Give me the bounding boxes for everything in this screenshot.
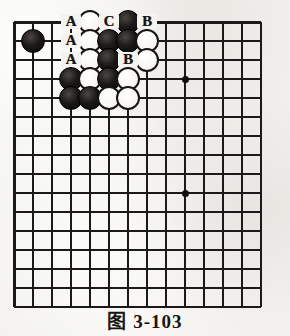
point-label-b[interactable]: B [118, 52, 138, 67]
grid-line-vertical [203, 22, 205, 307]
white-stone[interactable] [116, 86, 140, 110]
star-point [182, 190, 189, 197]
star-point [182, 76, 189, 83]
grid-line-vertical [32, 22, 34, 307]
figure-caption: 图 3-103 [0, 306, 290, 333]
point-label-c[interactable]: C [99, 14, 119, 29]
point-label-a[interactable]: A [61, 33, 81, 48]
grid-line-vertical [13, 22, 16, 307]
grid-line-vertical [222, 22, 224, 307]
white-stone[interactable] [135, 48, 159, 72]
grid-line-vertical [184, 22, 186, 307]
go-diagram-figure: ACBAAB 图 3-103 [0, 0, 290, 336]
grid-line-vertical [260, 22, 262, 307]
point-label-a[interactable]: A [61, 14, 81, 29]
go-board[interactable]: ACBAAB [0, 0, 290, 300]
black-stone[interactable] [21, 29, 45, 53]
point-label-b[interactable]: B [137, 14, 157, 29]
grid-line-vertical [51, 22, 53, 307]
point-label-a[interactable]: A [61, 52, 81, 67]
grid-line-vertical [165, 22, 167, 307]
caption-text: 图 3-103 [107, 311, 182, 332]
grid-line-vertical [241, 22, 243, 307]
